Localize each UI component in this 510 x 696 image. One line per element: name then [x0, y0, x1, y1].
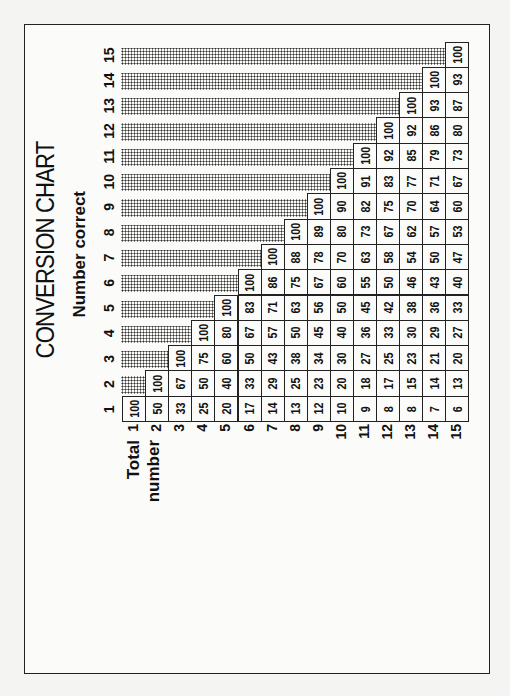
table-cell: 86 — [261, 269, 285, 295]
table-cell: 93 — [422, 92, 446, 118]
cell-value: 46 — [404, 276, 419, 288]
shaded-bar — [121, 48, 445, 65]
table-cell: 82 — [353, 193, 377, 219]
cell-value: 20 — [219, 403, 234, 415]
cell-value: 33 — [242, 378, 257, 390]
table-cell: 30 — [330, 345, 354, 371]
row-label: 12 — [379, 424, 395, 444]
cell-value: 100 — [288, 223, 303, 241]
cell-value: 50 — [381, 276, 396, 288]
cell-value: 100 — [358, 147, 373, 165]
cell-value: 56 — [311, 302, 326, 314]
table-cell: 57 — [261, 320, 285, 346]
row-label: 7 — [264, 424, 280, 444]
table-cell: 60 — [214, 345, 238, 371]
cell-value: 62 — [404, 226, 419, 238]
table-cell: 6 — [445, 396, 469, 422]
cell-value: 80 — [334, 226, 349, 238]
table-cell: 70 — [399, 193, 423, 219]
table-cell: 67 — [238, 320, 262, 346]
cell-value: 100 — [427, 71, 442, 89]
table-cell: 45 — [307, 320, 331, 346]
table-cell: 13 — [445, 370, 469, 396]
cell-value: 63 — [358, 251, 373, 263]
cell-value: 75 — [381, 200, 396, 212]
cell-value: 58 — [381, 251, 396, 263]
cell-value: 42 — [381, 302, 396, 314]
cell-value: 83 — [381, 175, 396, 187]
chart-title-text: CONVERSION CHART — [30, 0, 61, 629]
table-cell: 29 — [422, 320, 446, 346]
cell-value: 38 — [404, 302, 419, 314]
cell-value: 78 — [311, 251, 326, 263]
row-label: 10 — [333, 424, 349, 444]
cell-value: 100 — [334, 172, 349, 190]
table-cell: 87 — [445, 92, 469, 118]
cell-value: 12 — [311, 403, 326, 415]
cell-value: 85 — [404, 150, 419, 162]
cell-value: 40 — [450, 276, 465, 288]
table-cell: 62 — [399, 219, 423, 245]
table-cell: 27 — [445, 320, 469, 346]
cell-value: 100 — [196, 324, 211, 342]
cell-value: 23 — [311, 378, 326, 390]
table-cell: 50 — [238, 345, 262, 371]
table-cell: 100 — [168, 345, 192, 371]
cell-value: 13 — [450, 378, 465, 390]
table-cell: 100 — [376, 117, 400, 143]
table-cell: 90 — [330, 193, 354, 219]
conversion-chart-page: CONVERSION CHART Number correct Total nu… — [0, 0, 510, 696]
row-label: 8 — [287, 424, 303, 444]
table-cell: 100 — [261, 244, 285, 270]
table-cell: 7 — [422, 396, 446, 422]
table-cell: 56 — [307, 295, 331, 321]
table-cell: 85 — [399, 143, 423, 169]
cell-value: 29 — [427, 327, 442, 339]
cell-value: 17 — [381, 378, 396, 390]
cell-value: 77 — [404, 175, 419, 187]
table-cell: 64 — [422, 193, 446, 219]
column-axis-label: Number correct — [70, 191, 90, 318]
cell-value: 50 — [242, 352, 257, 364]
cell-value: 17 — [242, 403, 257, 415]
cell-value: 50 — [288, 327, 303, 339]
cell-value: 25 — [288, 378, 303, 390]
table-cell: 89 — [307, 219, 331, 245]
table-cell: 40 — [330, 320, 354, 346]
column-label: 3 — [101, 346, 117, 371]
column-label: 4 — [101, 321, 117, 346]
table-cell: 53 — [445, 219, 469, 245]
column-label: 1 — [101, 397, 117, 422]
cell-value: 60 — [450, 200, 465, 212]
shaded-bar — [121, 376, 145, 393]
cell-value: 83 — [242, 302, 257, 314]
table-cell: 83 — [376, 168, 400, 194]
row-label: 2 — [148, 424, 164, 444]
shaded-bar — [121, 123, 376, 140]
column-label: 5 — [101, 296, 117, 321]
table-cell: 54 — [399, 244, 423, 270]
row-label: 5 — [217, 424, 233, 444]
table-cell: 50 — [191, 370, 215, 396]
cell-value: 100 — [127, 400, 142, 418]
cell-value: 67 — [173, 378, 188, 390]
cell-value: 13 — [288, 403, 303, 415]
cell-value: 57 — [265, 327, 280, 339]
cell-value: 50 — [427, 251, 442, 263]
table-cell: 20 — [330, 370, 354, 396]
table-cell: 33 — [445, 295, 469, 321]
table-cell: 73 — [445, 143, 469, 169]
table-cell: 75 — [284, 269, 308, 295]
row-axis-label-line1: Total — [124, 440, 144, 506]
cell-value: 40 — [219, 378, 234, 390]
table-cell: 27 — [353, 345, 377, 371]
table-cell: 80 — [445, 117, 469, 143]
cell-value: 82 — [358, 200, 373, 212]
cell-value: 50 — [334, 302, 349, 314]
table-cell: 25 — [191, 396, 215, 422]
shaded-bar — [121, 275, 238, 292]
row-label: 15 — [448, 424, 464, 444]
table-cell: 100 — [122, 396, 146, 422]
column-label: 11 — [101, 144, 117, 169]
row-label: 3 — [171, 424, 187, 444]
